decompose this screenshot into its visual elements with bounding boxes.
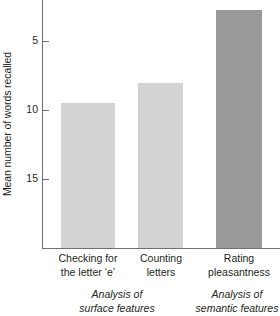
y-tick-10: 10 xyxy=(0,110,49,111)
y-tick-15: 15 xyxy=(0,179,49,180)
y-axis-title: Mean number of words recalled xyxy=(0,0,14,248)
category-labels: Checking for the letter ‘e’ Counting let… xyxy=(43,252,280,284)
bar-checking-for-the-letter-e xyxy=(61,103,115,248)
y-tick-label-10: 10 xyxy=(16,104,38,114)
category-label-2-line1: Rating xyxy=(193,252,280,266)
y-tick-label-5: 5 xyxy=(16,35,38,45)
group-label-semantic-features: Analysis of semantic features xyxy=(191,288,280,315)
group-label-0-line1: Analysis of xyxy=(51,288,183,302)
x-axis-line xyxy=(42,248,280,249)
bar-chart: Mean number of words recalled 15 10 5 Ch… xyxy=(0,0,280,316)
group-label-1-line1: Analysis of xyxy=(191,288,280,302)
plot-area xyxy=(43,0,280,248)
bar-counting-letters xyxy=(138,83,183,248)
group-label-1-line2: semantic features xyxy=(191,302,280,316)
category-label-2: Rating pleasantness xyxy=(193,252,280,279)
group-labels: Analysis of surface features Analysis of… xyxy=(43,288,280,316)
y-tick-label-15: 15 xyxy=(16,173,38,183)
bar-rating-pleasantness xyxy=(216,10,262,248)
group-label-surface-features: Analysis of surface features xyxy=(51,288,183,315)
category-label-2-line2: pleasantness xyxy=(193,266,280,280)
y-tick-5: 5 xyxy=(0,41,49,42)
group-label-0-line2: surface features xyxy=(51,302,183,316)
